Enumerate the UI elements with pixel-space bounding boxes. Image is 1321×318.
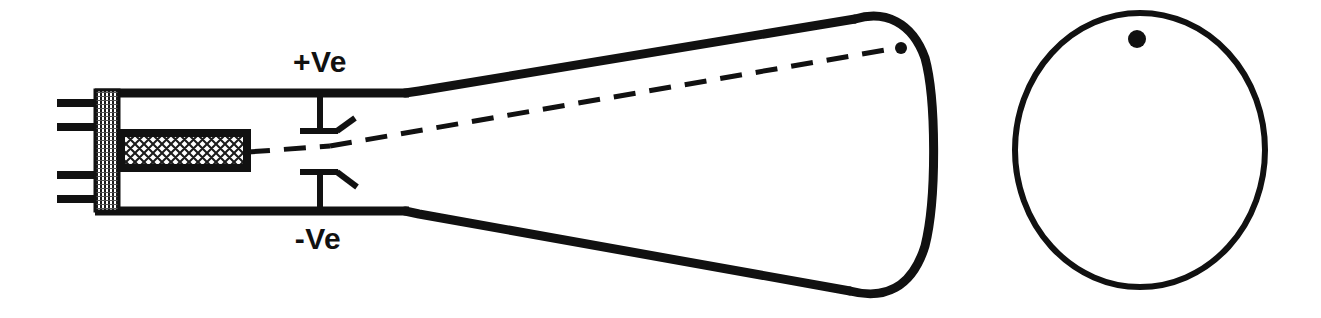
plate-label-positive: +Ve <box>293 45 347 78</box>
upper-deflection-plate <box>300 95 355 131</box>
curved-screen-face <box>850 16 934 294</box>
flare-wall-bottom <box>405 211 850 291</box>
beam-impact-spot <box>895 42 907 54</box>
plate-label-negative: -Ve <box>295 222 342 255</box>
screen-front-view <box>1015 13 1265 287</box>
beam-segment-pre-deflection <box>248 146 330 152</box>
cross-hatched-electron-gun <box>121 133 247 168</box>
upper-plate-tail <box>337 118 355 131</box>
crt-diagram-canvas: +Ve -Ve <box>0 0 1321 318</box>
hatched-base-block <box>95 90 119 211</box>
crt-diagram-root: +Ve -Ve <box>0 0 1321 318</box>
lower-deflection-plate <box>300 172 357 209</box>
lower-plate-tail <box>337 172 357 187</box>
screen-front-view-circle <box>1015 13 1265 287</box>
tube-flare-outline <box>405 16 934 294</box>
screen-front-view-spot <box>1128 30 1146 48</box>
electron-gun-base-pins <box>57 103 99 199</box>
flare-wall-top <box>405 19 855 93</box>
